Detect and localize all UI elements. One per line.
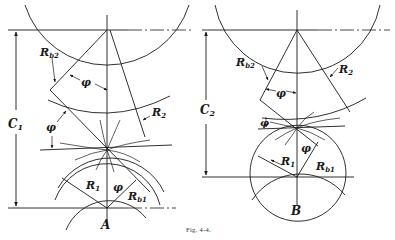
phi-lower-label: φ (113, 181, 123, 194)
rb1-label: Rb1 (315, 160, 335, 174)
figure-caption: Fig. 4-4. (186, 226, 211, 233)
gear1-outer-arc (252, 174, 345, 200)
r2-label: R2 (338, 63, 353, 77)
panel-a: Rb2 φ R2 φ C1 R1 φ Rb1 A (6, 5, 192, 232)
r1-label: R1 (85, 179, 100, 193)
phi-upper-label: φ (276, 87, 286, 100)
rb2-label: Rb2 (235, 56, 255, 70)
r2-line (110, 30, 145, 137)
phi-left-label: φ (46, 121, 56, 134)
center-a-label: A (100, 218, 110, 232)
phi-upper-label: φ (81, 76, 91, 89)
rb1-label: Rb1 (127, 190, 147, 204)
r2-label: R2 (151, 106, 166, 120)
rb2-line (50, 30, 107, 90)
phi-lower-label: φ (301, 142, 311, 155)
r1-label: R1 (280, 155, 295, 169)
gear-mesh-diagram: Rb2 φ R2 φ C1 R1 φ Rb1 A (0, 0, 395, 240)
panel-b: Rb2 φ R2 φ C2 R1 φ Rb1 B (198, 5, 390, 221)
center-b-label: B (290, 204, 301, 218)
phi-left-label: φ (260, 117, 269, 128)
r1-line (62, 178, 107, 208)
gear2-pitch-arc (262, 98, 366, 119)
